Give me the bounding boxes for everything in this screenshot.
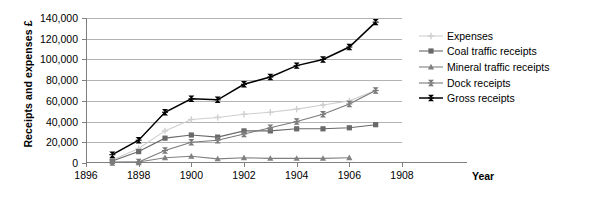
x-tick-label: 1906 — [329, 170, 369, 181]
legend-marker-plus-icon — [418, 29, 444, 43]
legend-label: Expenses — [444, 30, 493, 42]
y-tick-label: 120,000 — [16, 34, 78, 44]
data-point-square — [162, 136, 167, 141]
legend-marker-triangle-icon — [418, 60, 444, 74]
y-tick-label: 60,000 — [16, 96, 78, 106]
data-point-plus — [428, 33, 434, 39]
x-tick-mark — [402, 163, 403, 167]
legend-item-mineral-traffic-receipts[interactable]: Mineral traffic receipts — [418, 59, 600, 75]
data-point-plus — [267, 109, 273, 115]
data-point-bowtie — [215, 137, 221, 143]
x-tick-mark — [139, 163, 140, 167]
data-point-bowtie — [428, 79, 434, 85]
x-tick-label: 1902 — [224, 170, 264, 181]
data-point-bowtie — [320, 111, 326, 117]
series-line — [112, 156, 349, 162]
data-point-bowtie — [294, 62, 300, 68]
data-point-plus — [320, 102, 326, 108]
chart-container: Receipts and expenses £ 140,000 120,000 … — [0, 0, 602, 200]
data-point-bowtie — [428, 95, 434, 101]
data-series-layer — [86, 18, 402, 163]
data-point-bowtie — [294, 118, 300, 124]
data-point-plus — [293, 106, 299, 112]
legend-marker-bowtie-icon — [418, 76, 444, 90]
data-point-plus — [188, 116, 194, 122]
data-point-plus — [162, 128, 168, 134]
data-point-plus — [241, 111, 247, 117]
y-tick-label: 0 — [16, 158, 78, 168]
x-tick-mark — [297, 163, 298, 167]
data-point-bowtie — [267, 74, 273, 80]
legend-label: Mineral traffic receipts — [444, 61, 550, 73]
data-point-square — [373, 122, 378, 127]
data-point-square — [428, 49, 433, 54]
legend-marker-square-icon — [418, 44, 444, 58]
x-tick-label: 1900 — [171, 170, 211, 181]
x-tick-mark — [191, 163, 192, 167]
x-tick-mark — [244, 163, 245, 167]
legend-item-dock-receipts[interactable]: Dock receipts — [418, 75, 600, 91]
legend-label: Gross receipts — [444, 92, 515, 104]
data-point-plus — [214, 114, 220, 120]
x-tick-label: 1908 — [382, 170, 422, 181]
legend-item-expenses[interactable]: Expenses — [418, 28, 600, 44]
data-point-square — [320, 126, 325, 131]
legend-label: Dock receipts — [444, 77, 511, 89]
x-axis-extension — [402, 162, 467, 163]
y-tick-label: 140,000 — [16, 13, 78, 23]
data-point-square — [136, 149, 141, 154]
y-tick-label: 20,000 — [16, 137, 78, 147]
data-point-bowtie — [373, 87, 379, 93]
data-point-bowtie — [241, 81, 247, 87]
plot-area — [86, 18, 402, 163]
legend-label: Coal traffic receipts — [444, 45, 537, 57]
data-point-bowtie — [188, 96, 194, 102]
legend-item-coal-traffic-receipts[interactable]: Coal traffic receipts — [418, 44, 600, 60]
chart-legend: ExpensesCoal traffic receiptsMineral tra… — [418, 28, 600, 106]
y-tick-label: 80,000 — [16, 75, 78, 85]
y-tick-label: 100,000 — [16, 54, 78, 64]
legend-marker-bowtie-icon — [418, 91, 444, 105]
x-tick-label: 1904 — [277, 170, 317, 181]
x-tick-mark — [349, 163, 350, 167]
data-point-square — [347, 125, 352, 130]
y-tick-label: 40,000 — [16, 117, 78, 127]
data-point-square — [294, 126, 299, 131]
data-point-bowtie — [109, 152, 115, 158]
x-tick-label: 1898 — [119, 170, 159, 181]
x-axis-title: Year — [472, 170, 494, 182]
x-tick-mark — [86, 163, 87, 167]
data-point-bowtie — [162, 147, 168, 153]
data-point-bowtie — [320, 56, 326, 62]
data-point-bowtie — [215, 97, 221, 103]
data-point-square — [189, 132, 194, 137]
legend-item-gross-receipts[interactable]: Gross receipts — [418, 90, 600, 106]
data-point-bowtie — [188, 139, 194, 145]
x-tick-label: 1896 — [66, 170, 106, 181]
